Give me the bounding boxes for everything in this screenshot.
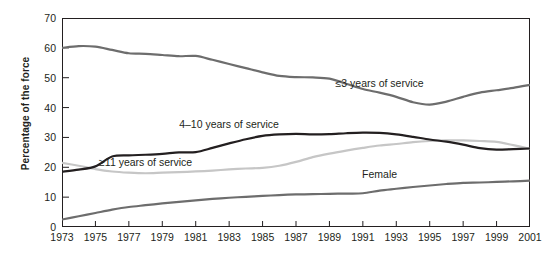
x-tick-1979: 1979 — [144, 231, 180, 243]
x-tick-1981: 1981 — [178, 231, 214, 243]
series-label-2: 4–10 years of service — [179, 118, 279, 130]
x-tick-1997: 1997 — [445, 231, 481, 243]
y-tick-40: 40 — [30, 103, 56, 113]
series-line-1 — [62, 46, 530, 105]
x-tick-1973: 1973 — [44, 231, 80, 243]
series-label-4: Female — [362, 168, 397, 180]
x-tick-1999: 1999 — [479, 231, 515, 243]
chart-figure: Percentage of the force 010203040506070 … — [0, 0, 551, 259]
y-tick-30: 30 — [30, 132, 56, 142]
x-tick-1993: 1993 — [378, 231, 414, 243]
x-tick-1985: 1985 — [245, 231, 281, 243]
y-axis-tick-labels: 010203040506070 — [24, 0, 56, 259]
x-tick-1983: 1983 — [211, 231, 247, 243]
x-tick-1987: 1987 — [278, 231, 314, 243]
x-tick-1975: 1975 — [77, 231, 113, 243]
y-tick-10: 10 — [30, 192, 56, 202]
x-tick-2001: 2001 — [512, 231, 548, 243]
y-tick-70: 70 — [30, 13, 56, 23]
series-line-4 — [62, 181, 530, 220]
y-tick-60: 60 — [30, 43, 56, 53]
y-tick-20: 20 — [30, 162, 56, 172]
chart-svg — [62, 18, 530, 227]
x-tick-1977: 1977 — [111, 231, 147, 243]
series-label-1: ≤3 years of service — [336, 77, 424, 89]
x-tick-1989: 1989 — [311, 231, 347, 243]
x-axis-tick-labels: 1973197519771979198119831985198719891991… — [0, 231, 551, 251]
series-label-3: ≥11 years of service — [99, 156, 192, 168]
x-tick-1995: 1995 — [412, 231, 448, 243]
y-tick-50: 50 — [30, 73, 56, 83]
x-tick-1991: 1991 — [345, 231, 381, 243]
plot-area — [62, 18, 530, 227]
